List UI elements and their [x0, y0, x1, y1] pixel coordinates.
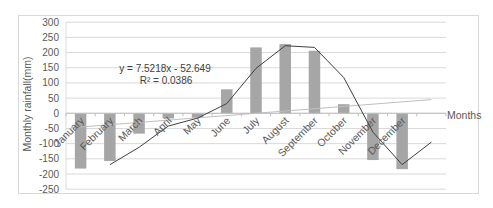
y-axis-tick-labels: 300250200150100500-50-100-150-200-250: [39, 17, 59, 195]
y-axis-title: Monthly rainfall(mm): [21, 56, 33, 151]
y-tick-label: -250: [39, 184, 59, 195]
y-tick-label: -50: [45, 123, 60, 134]
y-tick-label: 150: [42, 62, 59, 73]
bar-june: [221, 89, 233, 113]
category-label-june: June: [208, 114, 233, 139]
trendline-equation: y = 7.5218x - 52.649: [119, 63, 211, 74]
bar-september: [309, 51, 321, 114]
y-tick-label: 250: [42, 32, 59, 43]
y-tick-label: -150: [39, 153, 59, 164]
y-tick-label: 200: [42, 47, 59, 58]
y-tick-label: -200: [39, 169, 59, 180]
trendline-r-squared: R² = 0.0386: [140, 75, 193, 86]
category-label-july: July: [240, 114, 262, 136]
bar-august: [279, 44, 291, 113]
x-axis-title: Months: [447, 109, 481, 121]
bar-july: [250, 47, 262, 113]
bar-october: [338, 104, 350, 113]
rainfall-chart: 300250200150100500-50-100-150-200-250 Ja…: [0, 0, 493, 208]
y-tick-label: 0: [53, 108, 59, 119]
y-tick-label: 50: [48, 93, 60, 104]
y-tick-label: 300: [42, 17, 59, 28]
y-tick-label: 100: [42, 77, 59, 88]
